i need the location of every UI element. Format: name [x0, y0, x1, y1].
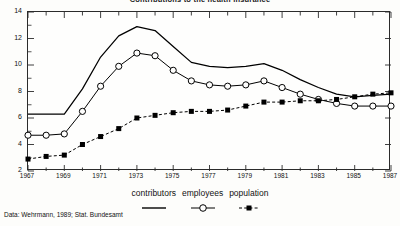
chart-container: Contributions to the health insurance 24…: [0, 0, 400, 226]
legend-label-contributors: contributors: [132, 188, 176, 198]
x-axis-tick-label: 1975: [157, 172, 187, 179]
x-axis-tick-label: 1987: [375, 172, 400, 179]
legend-label-population: population: [229, 188, 268, 198]
legend: contributorsemployeespopulation: [0, 188, 400, 198]
x-axis-tick-label: 1967: [12, 172, 42, 179]
legend-label-row: contributorsemployeespopulation: [0, 188, 400, 198]
legend-label-employees: employees: [182, 188, 223, 198]
x-axis-tick-label: 1973: [121, 172, 151, 179]
source-note: Data: Wehrmann, 1989; Stat. Bundesamt: [4, 211, 123, 218]
x-axis-tick-label: 1985: [339, 172, 369, 179]
x-axis-tick-label: 1977: [194, 172, 224, 179]
legend-marker-population: [229, 200, 269, 212]
legend-marker-contributors: [134, 200, 174, 212]
legend-marker-employees: [183, 200, 223, 212]
x-axis-tick-label: 1981: [266, 172, 296, 179]
x-axis-tick-label: 1979: [230, 172, 260, 179]
x-axis-tick-label: 1983: [302, 172, 332, 179]
x-axis-tick-label: 1971: [85, 172, 115, 179]
x-axis-tick-label: 1969: [48, 172, 78, 179]
